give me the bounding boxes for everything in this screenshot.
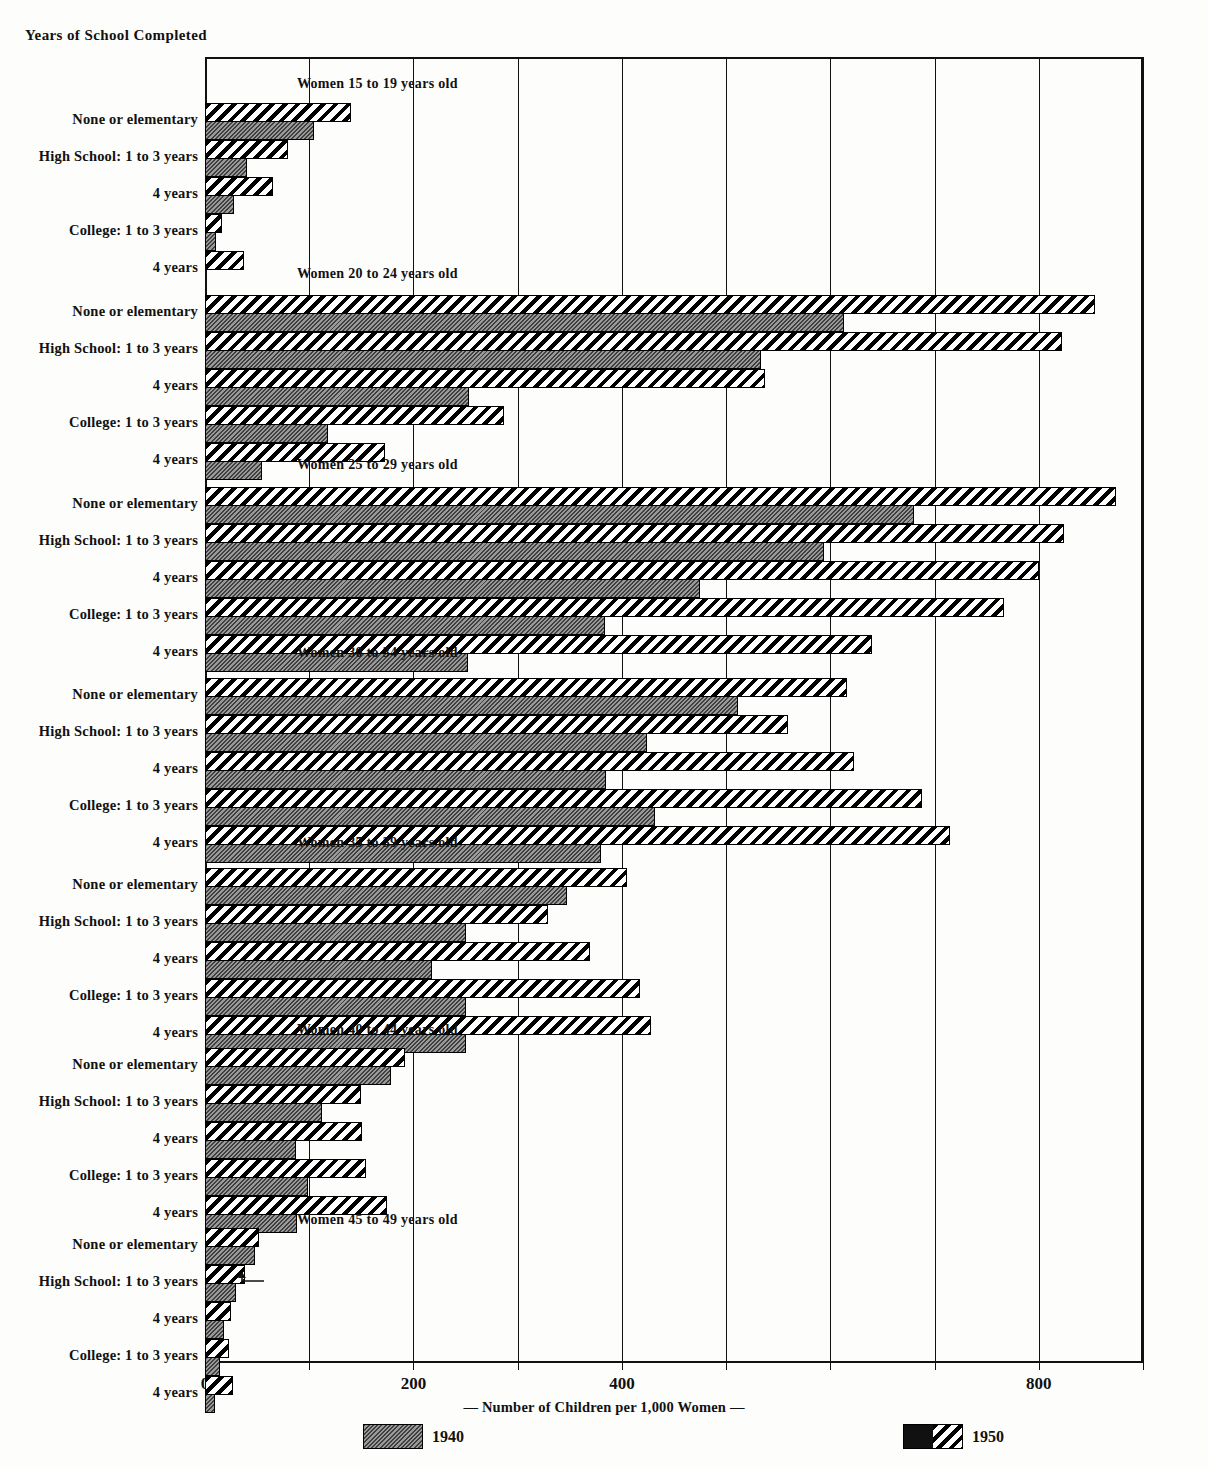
bar-1950 <box>205 406 504 425</box>
bar-row-label: None or elementary <box>0 111 198 128</box>
bar-1950 <box>205 103 351 122</box>
bar-row: 4 years <box>0 1122 1208 1159</box>
bar-row-label: 4 years <box>0 259 198 276</box>
bar-row: High School: 1 to 3 years <box>0 524 1208 561</box>
bar-1940 <box>205 733 647 752</box>
bar-row: 4 years <box>0 635 1208 672</box>
bar-1940 <box>205 616 605 635</box>
group-title: Women 25 to 29 years old <box>297 457 458 473</box>
legend-item-1940: 1940 <box>363 1424 464 1449</box>
bar-1950 <box>205 524 1064 543</box>
bar-1940 <box>205 387 469 406</box>
bar-row-label: College: 1 to 3 years <box>0 222 198 239</box>
bar-row-label: High School: 1 to 3 years <box>0 340 198 357</box>
bar-1940 <box>205 232 216 251</box>
bar-1950 <box>205 789 922 808</box>
bar-1940 <box>205 997 466 1016</box>
bar-row-label: High School: 1 to 3 years <box>0 1273 198 1290</box>
bar-1940 <box>205 195 234 214</box>
bar-1940 <box>205 424 328 443</box>
bar-1950 <box>205 1122 362 1141</box>
bar-1950 <box>205 1159 366 1178</box>
bar-1940 <box>205 542 824 561</box>
bar-row: 4 years <box>0 561 1208 598</box>
legend-label-1950: 1950 <box>972 1428 1004 1446</box>
bar-row-label: College: 1 to 3 years <box>0 1347 198 1364</box>
bar-1940 <box>205 579 700 598</box>
bar-row-label: 4 years <box>0 451 198 468</box>
bar-row: 4 years <box>0 826 1208 863</box>
bar-row-label: College: 1 to 3 years <box>0 1167 198 1184</box>
bar-1950 <box>205 1085 361 1104</box>
bar-row: High School: 1 to 3 years <box>0 905 1208 942</box>
bar-row: High School: 1 to 3 years <box>0 715 1208 752</box>
bar-row-label: 4 years <box>0 185 198 202</box>
bar-row-label: High School: 1 to 3 years <box>0 532 198 549</box>
bar-row: None or elementary <box>0 868 1208 905</box>
bar-1950 <box>205 561 1039 580</box>
x-axis-caption: — Number of Children per 1,000 Women — <box>0 1399 1208 1416</box>
bar-1940 <box>205 1140 296 1159</box>
bar-row: High School: 1 to 3 years <box>0 332 1208 369</box>
bar-1940 <box>205 505 914 524</box>
bar-1950 <box>205 752 854 771</box>
bar-row: 4 years <box>0 1302 1208 1339</box>
bar-row: 4 years <box>0 251 1208 288</box>
bar-1950 <box>205 942 590 961</box>
bar-1950 <box>205 598 1004 617</box>
bar-row: High School: 1 to 3 years <box>0 1265 1208 1302</box>
bar-row: None or elementary <box>0 1048 1208 1085</box>
legend-swatch-1950-hatch <box>933 1425 962 1448</box>
legend-swatch-1940 <box>363 1424 423 1449</box>
bar-row-label: None or elementary <box>0 303 198 320</box>
bar-row-label: 4 years <box>0 834 198 851</box>
group-title: Women 30 to 34 years old <box>297 645 458 661</box>
bar-1950 <box>205 369 765 388</box>
bar-1950 <box>205 214 222 233</box>
bar-1950 <box>205 1376 233 1395</box>
legend-swatch-1950-dark <box>904 1425 933 1448</box>
bar-row: None or elementary <box>0 678 1208 715</box>
bar-1940 <box>205 461 262 480</box>
bar-row: None or elementary <box>0 295 1208 332</box>
bar-1950 <box>205 1302 231 1321</box>
bar-1950 <box>205 1228 259 1247</box>
bar-1950 <box>205 868 627 887</box>
bar-row: None or elementary <box>0 103 1208 140</box>
bar-row-label: College: 1 to 3 years <box>0 797 198 814</box>
bar-1950 <box>205 1048 405 1067</box>
bar-row: College: 1 to 3 years <box>0 979 1208 1016</box>
bar-row-label: High School: 1 to 3 years <box>0 148 198 165</box>
bar-1940 <box>205 1246 255 1265</box>
legend-swatch-1950 <box>903 1424 963 1449</box>
bar-1940 <box>205 807 655 826</box>
bar-row: College: 1 to 3 years <box>0 214 1208 251</box>
bar-1940 <box>205 1066 391 1085</box>
bar-1940 <box>205 1103 322 1122</box>
bar-row: High School: 1 to 3 years <box>0 140 1208 177</box>
bar-1950 <box>205 715 788 734</box>
legend-item-1950: 1950 <box>903 1424 1004 1449</box>
bar-row: 4 years <box>0 177 1208 214</box>
bar-1940 <box>205 886 567 905</box>
bar-1950 <box>205 251 244 270</box>
bar-row: College: 1 to 3 years <box>0 598 1208 635</box>
bar-1940 <box>205 121 314 140</box>
bar-row: College: 1 to 3 years <box>0 789 1208 826</box>
bar-1940 <box>205 1283 236 1302</box>
bar-row-label: 4 years <box>0 569 198 586</box>
bar-row-label: 4 years <box>0 377 198 394</box>
bar-row: High School: 1 to 3 years <box>0 1085 1208 1122</box>
bar-row-label: None or elementary <box>0 495 198 512</box>
bar-row-label: None or elementary <box>0 1236 198 1253</box>
bar-row: 4 years <box>0 443 1208 480</box>
bar-row-label: College: 1 to 3 years <box>0 606 198 623</box>
bar-row-label: High School: 1 to 3 years <box>0 913 198 930</box>
bar-1940 <box>205 158 247 177</box>
bar-row: None or elementary <box>0 487 1208 524</box>
callout-arrow-icon <box>236 1272 266 1284</box>
bar-1940 <box>205 1177 308 1196</box>
bar-1940 <box>205 1357 220 1376</box>
bar-row-label: 4 years <box>0 1024 198 1041</box>
bar-1940 <box>205 770 606 789</box>
